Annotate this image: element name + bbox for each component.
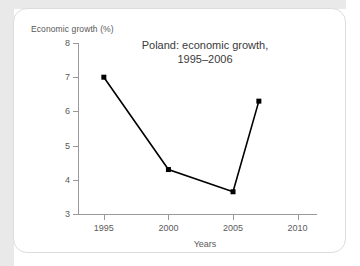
data-point-2005 xyxy=(231,189,236,194)
data-point-2000 xyxy=(166,167,171,172)
data-series-layer xyxy=(0,0,360,266)
line-chart: Economic growth (%) Poland: economic gro… xyxy=(0,0,360,266)
page-root: Economic growth (%) Poland: economic gro… xyxy=(0,0,360,266)
series-line-0 xyxy=(104,77,259,192)
data-point-2007 xyxy=(256,99,261,104)
data-point-1995 xyxy=(101,75,106,80)
x-axis-caption: Years xyxy=(165,239,245,249)
